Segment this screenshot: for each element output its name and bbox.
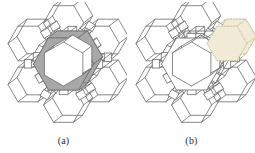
panel-b-drawing: [128, 2, 255, 126]
panel-a-caption: (a): [0, 135, 127, 147]
panel-b-caption: (b): [128, 135, 255, 147]
panel-a-drawing: [0, 2, 127, 126]
figure-panel-b: (b): [128, 0, 255, 153]
figure-panel-a: (a): [0, 0, 127, 153]
figure-root: (a) (b): [0, 0, 255, 153]
